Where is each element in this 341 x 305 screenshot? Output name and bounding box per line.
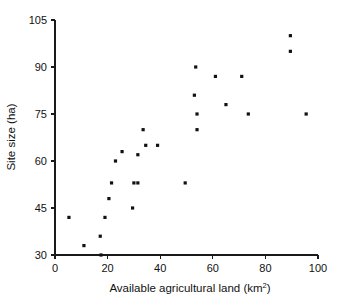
data-point-marker [142, 128, 145, 131]
data-point-marker [131, 206, 134, 209]
x-tick-label: 60 [207, 262, 219, 274]
data-point-marker [67, 216, 70, 219]
x-tick-label: 20 [101, 262, 113, 274]
data-point-marker [156, 144, 159, 147]
data-point-marker [114, 159, 117, 162]
y-tick-label: 45 [35, 202, 47, 214]
data-point-marker [144, 144, 147, 147]
y-tick-label: 90 [35, 61, 47, 73]
plot-canvas: 3045607590105 020406080100 Available agr… [0, 0, 341, 305]
y-tick-label: 75 [35, 108, 47, 120]
data-point-marker [195, 112, 198, 115]
data-point-marker [103, 216, 106, 219]
data-point-marker [195, 128, 198, 131]
data-point-marker [184, 181, 187, 184]
data-point-marker [99, 253, 102, 256]
y-tick-label: 60 [35, 155, 47, 167]
data-points-layer [67, 34, 307, 257]
x-axis-title: Available agricultural land (km2) [109, 281, 270, 294]
y-axis-title: Site size (ha) [5, 103, 17, 170]
x-axis: 020406080100 [52, 255, 327, 274]
data-point-marker [240, 75, 243, 78]
data-point-marker [132, 181, 135, 184]
data-point-marker [120, 150, 123, 153]
x-tick-label: 80 [259, 262, 271, 274]
data-point-marker [289, 50, 292, 53]
x-tick-label: 0 [52, 262, 58, 274]
data-point-marker [214, 75, 217, 78]
data-point-marker [289, 34, 292, 37]
y-tick-label: 105 [29, 14, 47, 26]
y-axis: 3045607590105 [29, 14, 55, 261]
y-tick-label: 30 [35, 249, 47, 261]
data-point-marker [224, 103, 227, 106]
data-point-marker [305, 112, 308, 115]
x-tick-label: 40 [154, 262, 166, 274]
data-point-marker [107, 197, 110, 200]
data-point-marker [110, 181, 113, 184]
data-point-marker [193, 94, 196, 97]
scatter-plot-figure: 3045607590105 020406080100 Available agr… [0, 0, 341, 305]
x-tick-label: 100 [309, 262, 327, 274]
data-point-marker [194, 65, 197, 68]
data-point-marker [99, 235, 102, 238]
data-point-marker [247, 112, 250, 115]
data-point-marker [136, 153, 139, 156]
data-point-marker [82, 244, 85, 247]
data-point-marker [136, 181, 139, 184]
